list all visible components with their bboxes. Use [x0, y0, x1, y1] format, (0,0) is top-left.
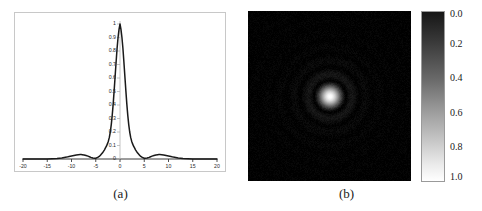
x-tick-label: 5 — [134, 164, 154, 169]
x-tick-label: 20 — [207, 164, 227, 169]
y-tick-label: 0.4 — [96, 102, 116, 107]
colorbar-tick-label: 0.4 — [450, 73, 463, 83]
psf-canvas — [248, 11, 411, 181]
y-tick-label: 0.2 — [96, 129, 116, 134]
x-tick-label: 0 — [110, 164, 130, 169]
axis-lines — [23, 21, 217, 159]
colorbar-group: 0.00.20.40.60.81.0 — [421, 11, 445, 182]
colorbar-tick-label: 0.6 — [450, 108, 463, 118]
y-tick-label: 1 — [96, 21, 116, 26]
colorbar-tick-label: 0.2 — [450, 39, 463, 49]
panel-a: 10.90.80.70.60.50.40.30.20.10 -20-15-10-… — [0, 0, 241, 211]
x-tick-label: 10 — [159, 164, 179, 169]
x-tick-label: -15 — [37, 164, 57, 169]
colorbar-tick-label: 0.8 — [450, 142, 463, 152]
x-tick-label: -5 — [86, 164, 106, 169]
psf-profile-chart — [15, 13, 225, 171]
colorbar-gradient — [421, 11, 445, 182]
y-tick-label: 0.5 — [96, 89, 116, 94]
colorbar-tick-label: 1.0 — [450, 172, 463, 182]
y-tick-label: 0.1 — [96, 143, 116, 148]
y-tick-label: 0.7 — [96, 62, 116, 67]
y-tick-label: 0.8 — [96, 48, 116, 53]
plot-frame-a: 10.90.80.70.60.50.40.30.20.10 -20-15-10-… — [14, 12, 226, 172]
figure-container: 10.90.80.70.60.50.40.30.20.10 -20-15-10-… — [0, 0, 482, 211]
y-tick-label: 0.9 — [96, 35, 116, 40]
caption-b: (b) — [241, 186, 452, 202]
y-tick-label: 0.6 — [96, 75, 116, 80]
y-tick-label: 0.3 — [96, 116, 116, 121]
panel-b: 0.00.20.40.60.81.0 (b) — [241, 0, 482, 211]
x-tick-label: 15 — [183, 164, 203, 169]
y-tick-label: 0 — [96, 156, 116, 161]
x-tick-label: -10 — [62, 164, 82, 169]
x-tick-label: -20 — [13, 164, 33, 169]
caption-a: (a) — [0, 186, 241, 202]
colorbar-tick-label: 0.0 — [450, 9, 463, 19]
psf-image-2d — [248, 11, 411, 181]
